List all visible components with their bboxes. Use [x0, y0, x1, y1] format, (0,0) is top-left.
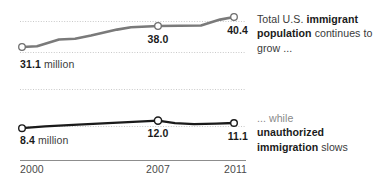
x-tick-label-2007: 2007 — [146, 163, 170, 175]
top-panel-annotation: Total U.S. immigrant population continue… — [257, 12, 373, 55]
bottom-start-value-label: 8.4 million — [20, 134, 68, 146]
x-tick-label-2000: 2000 — [20, 163, 44, 175]
bottom-marker-2000 — [19, 125, 26, 132]
top-start-value-label: 31.1 million — [20, 58, 74, 70]
bottom-annot-line2-bold: unauthorized — [257, 126, 324, 138]
bottom-marker-2011 — [231, 120, 238, 127]
top-marker-2007 — [155, 23, 162, 30]
bottom-marker-2007 — [154, 117, 161, 124]
top-end-value-label: 40.4 — [227, 24, 248, 36]
top-start-value: 31.1 — [20, 58, 41, 70]
top-series-markers — [19, 14, 238, 51]
top-annot-line1-bold: immigrant — [306, 13, 358, 25]
top-marker-2000 — [19, 44, 26, 51]
top-annot-line2-plain: continues — [312, 27, 361, 39]
bottom-mid-value-label: 12.0 — [148, 127, 169, 139]
bottom-start-value: 8.4 — [20, 134, 35, 146]
two-panel-line-chart-figure: 31.1 million 38.0 40.4 8.4 million 12.0 … — [0, 0, 373, 182]
bottom-annot-line1-plain: ... while — [257, 112, 293, 124]
bottom-annot-line3-plain: slows — [318, 141, 348, 153]
bottom-end-value-label: 11.1 — [228, 130, 248, 142]
bottom-annot-line3-bold: immigration — [257, 141, 318, 153]
top-annot-line1-plain: Total U.S. — [257, 13, 306, 25]
top-mid-value-label: 38.0 — [148, 33, 169, 45]
x-tick-label-2011: 2011 — [224, 163, 247, 175]
bottom-series-line-group — [22, 121, 234, 129]
top-marker-2011 — [231, 14, 238, 21]
bottom-series-line — [22, 121, 234, 129]
top-start-unit: million — [44, 58, 74, 70]
bottom-panel-annotation: ... while unauthorized immigration slows — [257, 111, 373, 154]
bottom-start-unit: million — [38, 134, 68, 146]
top-annot-line2-bold: population — [257, 27, 312, 39]
